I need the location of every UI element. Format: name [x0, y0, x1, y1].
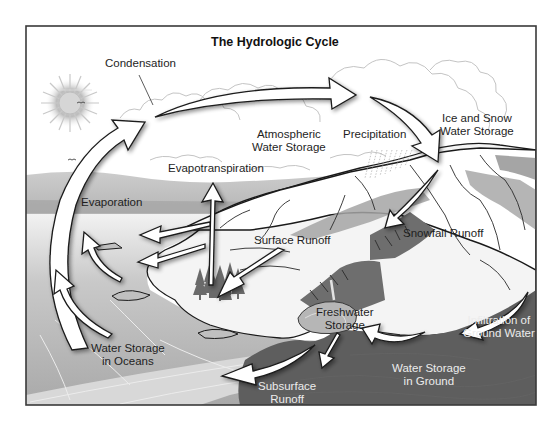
label-surface-runoff: Surface Runoff [254, 234, 331, 247]
hydrologic-cycle-illustration [0, 0, 559, 424]
label-water-storage-ground: Water Storage in Ground [392, 362, 466, 388]
label-precipitation: Precipitation [343, 128, 406, 141]
label-infiltration-ground-water: Infiltration of Ground Water [463, 314, 535, 340]
label-condensation: Condensation [105, 57, 176, 70]
label-atmospheric-water-storage: Atmospheric Water Storage [252, 128, 326, 154]
label-ice-snow-water-storage: Ice and Snow Water Storage [440, 112, 514, 138]
label-snowfall-runoff: Snowfall Runoff [403, 227, 483, 240]
label-freshwater-storage: Freshwater Storage [316, 306, 374, 332]
label-water-storage-oceans: Water Storage in Oceans [91, 342, 165, 368]
label-subsurface-runoff: Subsurface Runoff [258, 380, 316, 406]
label-evaporation: Evaporation [81, 196, 142, 209]
diagram-title: The Hydrologic Cycle [211, 36, 339, 49]
label-evapotranspiration: Evapotranspiration [168, 162, 264, 175]
